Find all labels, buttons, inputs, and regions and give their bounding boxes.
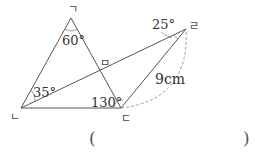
- point-label-e: ㅁ: [100, 57, 110, 70]
- point-label-b: ㄴ: [10, 111, 20, 124]
- length-label: 9cm: [155, 71, 185, 87]
- answer-close-paren: ): [243, 128, 250, 148]
- angle-label-d: 25°: [152, 17, 175, 32]
- segment-c-d: [121, 29, 186, 108]
- angle-label-a: 60°: [62, 33, 85, 48]
- angle-arc-a: [65, 29, 77, 31]
- angle-label-c: 130°: [91, 95, 122, 110]
- answer-open-paren: (: [89, 128, 96, 148]
- answer-blank[interactable]: [100, 128, 240, 148]
- point-label-a: ㄱ: [68, 3, 78, 16]
- point-label-d: ㄹ: [189, 20, 199, 33]
- point-label-c: ㄷ: [121, 112, 131, 125]
- angle-arc-d: [174, 35, 178, 39]
- angle-pointer-d: [161, 32, 172, 38]
- angle-label-b: 35°: [33, 85, 56, 100]
